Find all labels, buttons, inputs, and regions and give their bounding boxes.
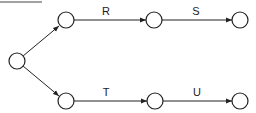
edge-label-u: U [193, 86, 201, 98]
edge-start-b1 [23, 66, 59, 96]
edge-S: S [162, 5, 232, 20]
edge-R: R [74, 5, 146, 20]
node-start [9, 53, 25, 69]
edge-label-t: T [103, 86, 110, 98]
node-b3 [232, 93, 248, 109]
edge-start-a1 [23, 26, 59, 56]
edge-U: U [163, 86, 232, 101]
node-a2 [146, 12, 162, 28]
edge-T: T [74, 86, 147, 101]
edge-label-r: R [102, 5, 110, 17]
node-b2 [147, 93, 163, 109]
node-a3 [232, 12, 248, 28]
node-b1 [58, 93, 74, 109]
node-a1 [58, 12, 74, 28]
edge-label-s: S [192, 5, 199, 17]
activity-diagram: R S T U [0, 0, 256, 113]
